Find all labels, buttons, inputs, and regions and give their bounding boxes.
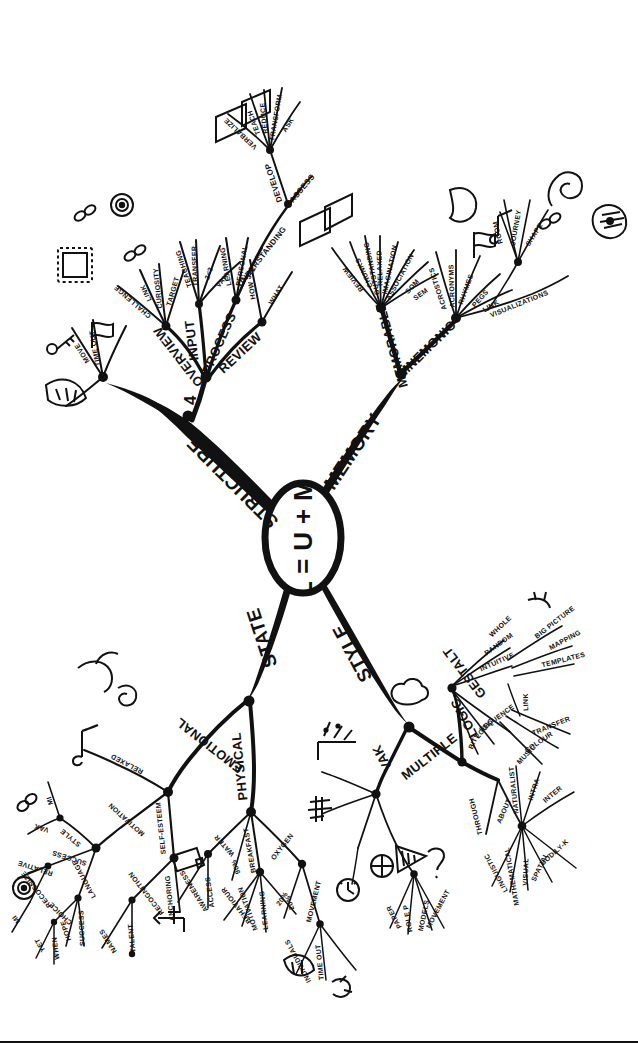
label-success[interactable]: SUCCESS	[51, 849, 87, 867]
fan-shell-icon	[46, 379, 86, 405]
curiosity-glasses-icon	[123, 243, 147, 262]
label-s-movement[interactable]: MOVEMENT	[425, 888, 451, 929]
dot-structure-tip	[98, 372, 108, 382]
physical-stem	[250, 702, 254, 812]
dot-breakfast-hub	[256, 868, 264, 876]
label-mnemonic[interactable]: MNEMONIC	[395, 317, 459, 380]
label-shape[interactable]: SHAPE	[524, 222, 544, 247]
dot-movement-hub	[316, 920, 324, 928]
label-individuals[interactable]: INDIVIDUALS	[283, 938, 312, 984]
label-about[interactable]: ABOUT	[495, 797, 512, 824]
label-names[interactable]: NAMES	[98, 928, 118, 954]
label-ox-20[interactable]: 20%	[284, 894, 295, 911]
binoculars-icon	[16, 792, 39, 813]
st-extra	[103, 326, 126, 377]
dot-water-hub	[204, 850, 212, 858]
clock-icon	[337, 879, 359, 901]
moon-face-icon	[450, 188, 476, 221]
label-access[interactable]: ACCESS	[204, 877, 215, 909]
vk-b	[322, 794, 376, 814]
label-paper[interactable]: PAPER	[385, 904, 403, 929]
branch-label-memory[interactable]: MEMORY	[320, 410, 386, 494]
dot-style-node	[404, 722, 415, 733]
dot-develop-hub	[266, 146, 274, 154]
cone-icon	[396, 846, 426, 872]
label-ask[interactable]: ASK	[281, 116, 295, 133]
label-mi2[interactable]: MI	[11, 914, 22, 925]
label-mstyle[interactable]: STYLE	[59, 827, 82, 848]
label-what[interactable]: WHAT	[267, 283, 285, 305]
dot-oxygen-hub	[298, 860, 306, 868]
label-2lt3[interactable]: 2<3	[203, 266, 214, 280]
camera-icon	[332, 976, 352, 997]
label-physical[interactable]: PHYSICAL	[229, 732, 251, 801]
dot-vis-hub	[514, 258, 522, 266]
label-journey[interactable]: JOURNEY	[509, 209, 522, 246]
dot-language-hub	[74, 894, 81, 901]
dot-gestaltlogic-hub	[447, 683, 456, 692]
label-success2[interactable]: SUCCESS	[77, 910, 85, 946]
label-m-relaxed[interactable]: RELAXED	[375, 250, 383, 286]
bird-icon	[78, 652, 118, 692]
dot-state-node	[244, 696, 255, 707]
dot-mnemonic-hub	[451, 313, 461, 323]
label-acronyms[interactable]: ACRONYMS	[447, 264, 456, 307]
label-oxygen[interactable]: OXYGEN	[269, 832, 294, 861]
label-intra[interactable]: INTRA	[527, 777, 541, 801]
dot-structure-node	[183, 411, 194, 422]
label-movement[interactable]: MOVEMENT	[305, 879, 322, 923]
vk-a	[322, 772, 376, 794]
dot-choice-hub	[51, 919, 57, 925]
em-relaxed	[84, 750, 168, 792]
label-selfesteem[interactable]: SELF-ESTEEM	[154, 802, 166, 855]
mn-visualizations	[456, 276, 568, 318]
label-mathematical[interactable]: MATHEMATICAL	[503, 846, 520, 906]
sun-burst-icon	[528, 592, 550, 608]
label-yet[interactable]: YET	[33, 937, 46, 953]
label-talent[interactable]: TALENT	[126, 923, 136, 953]
label-assess[interactable]: ASSESS	[288, 172, 317, 204]
ab-bodilyk	[522, 826, 576, 868]
label-visual[interactable]: VISUAL	[522, 858, 530, 886]
label-g-link[interactable]: LINK	[522, 693, 530, 711]
scribble-text-icon	[308, 796, 332, 822]
spiral-icon	[118, 686, 136, 706]
dot-about-hub	[518, 822, 527, 831]
dot-vaklower-hub	[410, 870, 418, 878]
label-anchoring[interactable]: ANCHORING	[164, 875, 176, 922]
logic-cloud-icon	[392, 679, 428, 705]
glasses-icon	[73, 203, 97, 222]
label-p-learning[interactable]: LEARNING	[258, 890, 269, 930]
dot-input-hub	[195, 300, 203, 308]
gesture-icon	[318, 722, 356, 760]
dot-mstyle-hub	[56, 814, 63, 821]
label-four[interactable]: 4	[181, 395, 200, 405]
label-90[interactable]: 90%	[230, 858, 242, 875]
center-label: L = U + M	[288, 479, 318, 597]
music-note-icon	[73, 725, 98, 765]
label-gestalt[interactable]: GESTALT	[440, 644, 489, 701]
target-icon	[111, 194, 133, 216]
dot-multiple-hub	[457, 757, 466, 766]
label-through[interactable]: THROUGH	[468, 798, 484, 836]
question-icon	[428, 849, 444, 878]
label-mstyle-vak[interactable]: VAK	[33, 823, 50, 834]
ph-mv-extra	[320, 924, 356, 970]
mindmap-drawing: L = U + M STRUCTURE MEMORY STATE STYLE 4…	[0, 0, 638, 1043]
ml-through	[486, 780, 498, 834]
label-room[interactable]: ROOM	[491, 221, 503, 245]
dot-emotional-hub	[163, 787, 173, 797]
vk-clock-stem	[352, 848, 358, 884]
stamp-icon	[58, 248, 92, 282]
label-when[interactable]: WHEN	[50, 937, 60, 960]
dot-process-hub	[232, 296, 241, 305]
swirl-icon	[549, 172, 582, 206]
mindmap-canvas: L = U + M STRUCTURE MEMORY STATE STYLE 4…	[0, 0, 638, 1043]
vk-c	[358, 794, 376, 848]
key-icon	[47, 335, 74, 354]
dot-motivation-hub	[92, 844, 101, 853]
label-rolep[interactable]: ROLE P	[402, 904, 414, 933]
branch-label-structure[interactable]: STRUCTURE	[183, 433, 283, 533]
label-transfer[interactable]: TRANSFER	[190, 246, 198, 287]
leaf-eye-icon	[593, 205, 627, 238]
